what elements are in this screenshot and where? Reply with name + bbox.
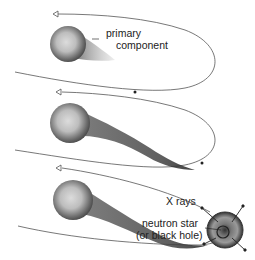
orbit-position-dot	[201, 162, 204, 165]
stage-2	[15, 89, 215, 170]
primary-component-label-line2: component	[116, 40, 168, 51]
primary-star	[50, 26, 86, 62]
primary-star	[50, 103, 90, 143]
stage-3	[18, 165, 246, 251]
primary-component-label-line1: primary	[106, 28, 141, 39]
neutron-star-label-line2: (or black hole)	[136, 230, 203, 241]
xrays-label: X rays	[166, 196, 196, 207]
orbit-path-1	[15, 14, 215, 90]
orbit-position-dot	[134, 91, 137, 94]
orbit-arrowhead-icon	[53, 11, 58, 17]
orbit-arrowhead-icon	[56, 165, 61, 171]
stage-1	[15, 11, 215, 94]
primary-star	[53, 180, 93, 220]
mass-transfer-stream	[78, 110, 195, 170]
neutron-star-label-line1: neutron star	[142, 218, 198, 229]
orbit-arrowhead-icon	[56, 89, 61, 95]
